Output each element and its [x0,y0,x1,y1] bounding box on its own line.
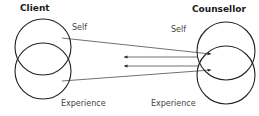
counsellor-experience-circle [197,46,255,104]
arrow-client-self-to-counsellor [62,38,211,54]
counsellor-self-label: Self [171,25,186,34]
client-experience-circle [15,43,71,99]
counsellor-experience-label: Experience [151,99,196,108]
counsellor-title: Counsellor [192,4,246,14]
arrow-client-experience-to-counsellor [62,70,211,81]
client-counsellor-diagram: Client Self Experience Counsellor Self E… [0,0,259,116]
counsellor-self-circle [197,22,255,80]
client-self-label: Self [72,23,87,32]
client-title: Client [20,3,50,13]
client-experience-label: Experience [61,99,106,108]
client-self-circle [15,19,71,75]
